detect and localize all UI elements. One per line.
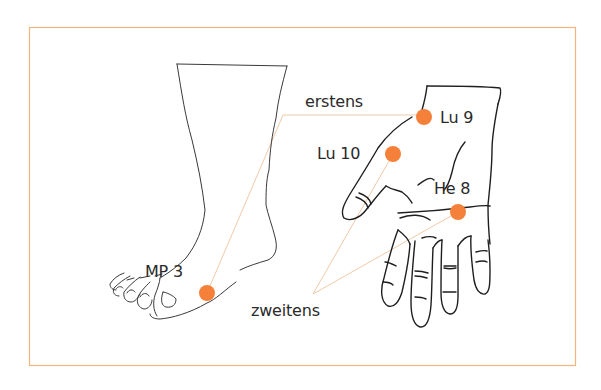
label-zweitens: zweitens	[251, 303, 320, 319]
label-lu10: Lu 10	[317, 146, 360, 162]
point-he8	[450, 204, 466, 220]
point-lu9	[416, 109, 432, 125]
label-erstens: erstens	[305, 94, 363, 110]
point-lu10	[385, 146, 401, 162]
acupuncture-diagram: erstens zweitens MP 3 Lu 9 Lu 10 He 8	[0, 0, 601, 390]
diagram-canvas	[0, 0, 601, 390]
point-mp3	[199, 285, 215, 301]
label-mp3: MP 3	[145, 264, 183, 280]
foot-drawing	[110, 64, 287, 319]
label-lu9: Lu 9	[440, 110, 473, 126]
label-he8: He 8	[434, 181, 470, 197]
